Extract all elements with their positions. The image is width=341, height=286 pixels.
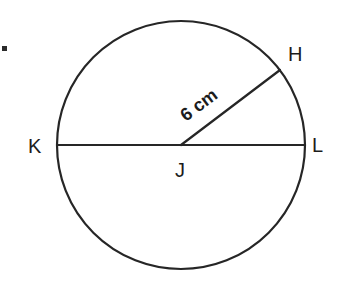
point-label-L: L: [312, 134, 323, 156]
point-label-H: H: [288, 43, 302, 65]
diagram-canvas: K L H J 6 cm: [0, 0, 341, 286]
point-label-J: J: [175, 159, 185, 181]
scan-artifact-speck: [2, 46, 7, 51]
circle-diagram-figure: K L H J 6 cm: [0, 0, 341, 286]
point-label-K: K: [28, 135, 42, 157]
